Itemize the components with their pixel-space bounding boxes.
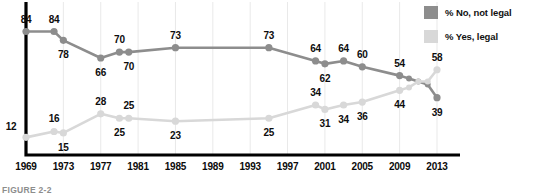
chart-series (22, 28, 440, 141)
point-value-label: 84 (49, 13, 60, 24)
point-value-label: 54 (394, 57, 405, 68)
data-point (433, 94, 440, 101)
data-point (396, 87, 403, 94)
point-value-label: 58 (432, 51, 443, 62)
x-axis-tick: 1985 (165, 161, 186, 172)
x-axis-tick: 1993 (239, 161, 260, 172)
figure-caption: FIGURE 2-2 (2, 185, 52, 193)
legend-swatch-yes-icon (424, 30, 438, 43)
point-value-label: 44 (394, 99, 405, 110)
axis-line (26, 2, 460, 155)
data-point (312, 57, 319, 64)
x-axis-tick: 1997 (277, 161, 298, 172)
legend-label-yes: % Yes, legal (445, 31, 498, 42)
data-point (359, 63, 366, 70)
data-point (406, 76, 412, 82)
data-point (415, 79, 421, 85)
legend-swatch-no-icon (424, 6, 438, 19)
point-value-label: 70 (123, 61, 134, 72)
point-value-label: 60 (357, 48, 368, 59)
data-point (406, 84, 412, 90)
x-axis-tick: 1969 (15, 161, 36, 172)
data-point (340, 57, 347, 64)
data-point (265, 115, 272, 122)
data-point (50, 128, 57, 135)
point-value-label: 12 (6, 121, 17, 132)
legend-item-yes: % Yes, legal (424, 26, 536, 46)
point-value-label: 31 (320, 118, 331, 129)
x-axis-tick: 2009 (389, 161, 410, 172)
data-point (116, 49, 123, 56)
point-value-label: 23 (170, 130, 181, 141)
point-value-label: 66 (95, 66, 106, 77)
data-point (125, 49, 132, 56)
figure-container: 1969197319771981198519891993199720012005… (0, 0, 540, 193)
data-point (125, 115, 132, 122)
x-axis-tick: 2005 (352, 161, 373, 172)
point-value-label: 36 (357, 111, 368, 122)
series-line-1 (26, 70, 437, 138)
data-point (340, 101, 347, 108)
x-axis-tick: 1973 (53, 161, 74, 172)
x-axis-tick: 1989 (202, 161, 223, 172)
x-axis-tick: 2013 (426, 161, 447, 172)
legend-item-no: % No, not legal (424, 2, 536, 22)
point-value-label: 78 (58, 49, 69, 60)
data-point (433, 66, 440, 73)
data-point (22, 28, 29, 35)
point-value-label: 34 (338, 114, 349, 125)
chart-legend: % No, not legal % Yes, legal (424, 2, 536, 50)
chart-axis (26, 2, 460, 155)
x-axis-tick: 1981 (127, 161, 148, 172)
point-value-label: 34 (310, 87, 321, 98)
data-point (425, 79, 431, 85)
point-value-label: 73 (263, 29, 274, 40)
x-axis-tick: 1977 (90, 161, 111, 172)
data-point (396, 72, 403, 79)
data-point (60, 37, 67, 44)
point-value-label: 73 (170, 29, 181, 40)
point-value-label: 25 (114, 127, 125, 138)
data-point (50, 28, 57, 35)
legend-label-no: % No, not legal (445, 7, 512, 18)
data-point (22, 134, 29, 141)
data-point (265, 44, 272, 51)
data-point (172, 118, 179, 125)
data-point (97, 110, 104, 117)
point-value-label: 16 (49, 113, 60, 124)
data-point (60, 129, 67, 136)
point-value-label: 70 (114, 34, 125, 45)
point-value-label: 28 (95, 95, 106, 106)
data-point (97, 54, 104, 61)
series-line-0 (26, 32, 437, 98)
data-point (172, 44, 179, 51)
data-point (312, 101, 319, 108)
point-value-label: 84 (21, 13, 32, 24)
data-point (321, 60, 328, 67)
data-point (321, 106, 328, 113)
x-axis-tick: 2001 (314, 161, 335, 172)
point-value-label: 64 (338, 42, 349, 53)
point-value-label: 25 (263, 127, 274, 138)
data-point (359, 98, 366, 105)
point-value-label: 64 (310, 42, 321, 53)
point-value-label: 15 (58, 141, 69, 152)
data-point (116, 115, 123, 122)
point-value-label: 62 (320, 72, 331, 83)
point-value-label: 25 (123, 100, 134, 111)
point-value-label: 39 (432, 106, 443, 117)
